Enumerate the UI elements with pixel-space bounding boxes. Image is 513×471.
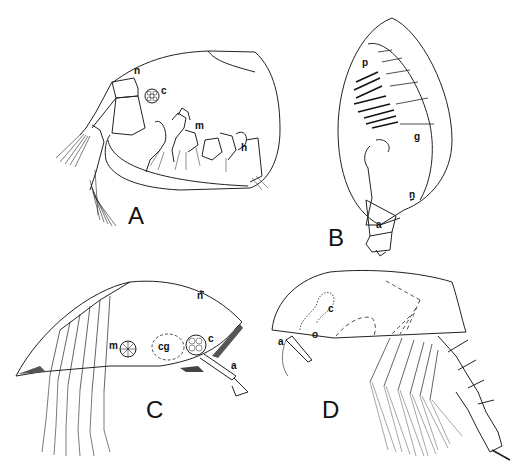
label-b-g: g: [414, 132, 420, 142]
label-d-a: a: [278, 337, 284, 347]
label-c-c: c: [208, 334, 214, 344]
label-a-h: h: [241, 143, 247, 153]
label-c-a: a: [231, 361, 237, 371]
panel-a-drawing: [56, 51, 280, 226]
panel-c-drawing: [16, 281, 248, 456]
panel-label-d: D: [322, 398, 339, 422]
label-a-m: m: [195, 121, 204, 131]
panel-d-drawing: [272, 270, 510, 460]
panel-label-b: B: [328, 226, 344, 250]
panel-b-drawing: [338, 18, 452, 256]
label-d-c: c: [328, 304, 334, 314]
figure-drawing: [0, 0, 513, 471]
label-a-c: c: [161, 86, 167, 96]
panel-label-a: A: [128, 204, 144, 228]
label-d-o: o: [312, 330, 318, 340]
label-a-n: n: [134, 66, 140, 76]
label-c-m: m: [109, 341, 118, 351]
label-c-n: n: [197, 291, 203, 301]
label-b-n: n: [409, 190, 415, 200]
label-b-p: p: [362, 58, 368, 68]
label-c-cg: cg: [158, 342, 170, 352]
label-b-a: a: [376, 220, 382, 230]
panel-label-c: C: [146, 398, 163, 422]
